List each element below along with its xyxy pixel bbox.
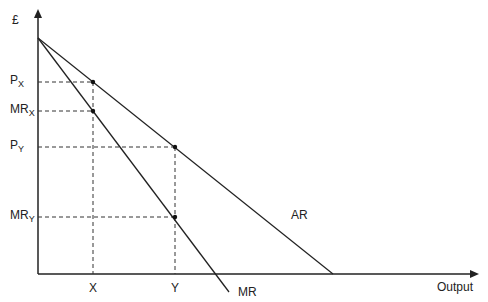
point-mry	[173, 215, 177, 219]
label-px-main: P	[10, 73, 18, 87]
label-ar: AR	[291, 208, 308, 222]
label-px: PX	[10, 73, 24, 91]
point-py	[173, 145, 177, 149]
label-y: Y	[171, 281, 179, 295]
ar-curve	[38, 38, 333, 274]
label-mrx-main: MR	[10, 102, 29, 116]
mr-curve	[38, 38, 229, 292]
x-axis-arrow-icon	[470, 270, 479, 278]
label-mry: MRY	[10, 208, 35, 226]
label-mr: MR	[238, 285, 257, 299]
label-mrx: MRX	[10, 102, 35, 120]
label-x: X	[89, 281, 97, 295]
label-py-sub: Y	[18, 144, 24, 154]
label-mrx-sub: X	[29, 108, 35, 118]
diagram-canvas	[0, 0, 488, 302]
label-px-sub: X	[18, 79, 24, 89]
label-mry-sub: Y	[29, 214, 35, 224]
label-py-main: P	[10, 138, 18, 152]
label-mry-main: MR	[10, 208, 29, 222]
y-axis-arrow-icon	[34, 9, 42, 18]
label-py: PY	[10, 138, 24, 156]
x-axis-label: Output	[437, 280, 473, 294]
point-mrx	[91, 109, 95, 113]
y-axis-label: £	[12, 13, 19, 27]
guide-lines	[38, 82, 175, 274]
point-px	[91, 80, 95, 84]
